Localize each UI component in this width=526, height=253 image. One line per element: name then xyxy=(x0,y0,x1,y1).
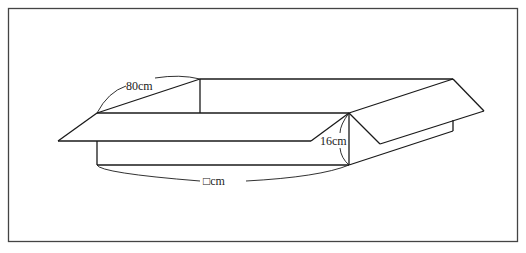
height-label: 16cm xyxy=(320,134,347,148)
box-lines xyxy=(58,79,484,165)
diagonal-label: 80cm xyxy=(126,79,153,93)
length-label: □cm xyxy=(203,174,226,188)
open-box-diagram: 80cm 16cm □cm xyxy=(0,0,526,253)
